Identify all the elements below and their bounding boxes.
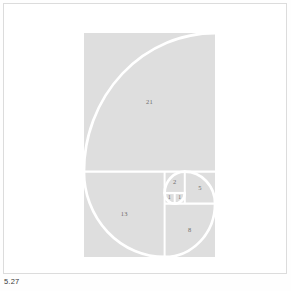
fibonacci-svg <box>84 33 215 257</box>
square-label-2: 2 <box>173 179 176 186</box>
square-label-1b: 1 <box>178 196 181 202</box>
page-canvas: 21 13 8 5 2 1 1 5.27 <box>0 0 291 291</box>
square-label-13: 13 <box>121 211 128 218</box>
square-label-1a: 1 <box>168 196 171 202</box>
square-label-21: 21 <box>146 99 153 106</box>
square-label-8: 8 <box>188 227 191 234</box>
page-frame: 21 13 8 5 2 1 1 <box>3 3 287 274</box>
fibonacci-figure: 21 13 8 5 2 1 1 <box>84 33 215 257</box>
golden-rectangle-fill <box>84 33 215 257</box>
square-label-5: 5 <box>198 184 201 191</box>
figure-caption: 5.27 <box>4 277 19 286</box>
